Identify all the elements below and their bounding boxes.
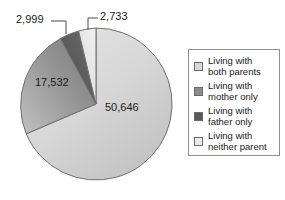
legend-label-mother-only-line2: mother only: [208, 92, 258, 103]
legend-item-both-parents[interactable]: Living with both parents: [189, 54, 279, 79]
legend-label-neither-parent-line1: Living with: [208, 130, 252, 141]
slice-value-mother-only: 17,532: [35, 76, 69, 88]
legend-label-neither-parent-line2: neither parent: [208, 142, 267, 153]
callout-value-father-only: 2,999: [16, 13, 44, 25]
legend-item-neither-parent[interactable]: Living with neither parent: [189, 129, 279, 154]
legend-label-mother-only-line1: Living with: [208, 80, 252, 91]
slice-value-both-parents: 50,646: [105, 101, 139, 113]
legend-label-father-only: Living with father only: [208, 106, 252, 127]
chart-legend: Living with both parents Living with mot…: [188, 49, 280, 156]
legend-swatch-father-only-icon: [194, 112, 203, 121]
legend-label-father-only-line2: father only: [208, 117, 252, 128]
legend-swatch-mother-only-icon: [194, 87, 203, 96]
legend-item-mother-only[interactable]: Living with mother only: [189, 79, 279, 104]
legend-label-father-only-line1: Living with: [208, 105, 252, 116]
legend-swatch-neither-parent-icon: [194, 137, 203, 146]
callout-value-neither-parent: 2,733: [100, 10, 128, 22]
legend-label-mother-only: Living with mother only: [208, 81, 258, 102]
legend-label-neither-parent: Living with neither parent: [208, 131, 267, 152]
legend-label-both-parents: Living with both parents: [208, 56, 261, 77]
leader-line-father-only: [51, 21, 66, 34]
pie-chart-figure: 50,646 17,532 2,999 2,733 Living with bo…: [0, 0, 285, 200]
legend-label-both-parents-line2: both parents: [208, 67, 261, 78]
legend-swatch-both-parents-icon: [194, 62, 203, 71]
legend-item-father-only[interactable]: Living with father only: [189, 104, 279, 129]
legend-label-both-parents-line1: Living with: [208, 55, 252, 66]
